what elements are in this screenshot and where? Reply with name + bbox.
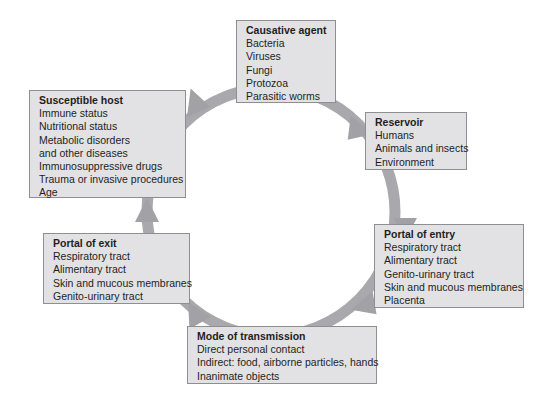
node-title: Reservoir (375, 116, 466, 129)
node-item: Indirect: food, airborne particles, hand… (197, 356, 376, 369)
node-item: Direct personal contact (197, 343, 376, 356)
node-title: Susceptible host (39, 94, 185, 107)
node-item: Fungi (246, 64, 335, 77)
node-item: Genito-urinary tract (53, 290, 189, 303)
node-item: Humans (375, 129, 466, 142)
node-item: Parasitic worms (246, 90, 335, 103)
node-reservoir: Reservoir Humans Animals and insects Env… (365, 112, 467, 170)
node-item: Animals and insects (375, 142, 466, 155)
node-item: Trauma or invasive procedures (39, 173, 185, 186)
node-item: Age (39, 186, 185, 199)
node-item: Immune status (39, 107, 185, 120)
node-item: Genito-urinary tract (384, 268, 523, 281)
node-portal-of-exit: Portal of exit Respiratory tract Aliment… (43, 233, 190, 304)
node-item: Placenta (384, 294, 523, 307)
node-item: Nutritional status (39, 120, 185, 133)
node-susceptible-host: Susceptible host Immune status Nutrition… (29, 90, 186, 198)
node-causative-agent: Causative agent Bacteria Viruses Fungi P… (236, 20, 336, 103)
node-item: and other diseases (39, 147, 185, 160)
node-title: Mode of transmission (197, 330, 376, 343)
node-title: Portal of exit (53, 237, 189, 250)
node-item: Alimentary tract (53, 263, 189, 276)
node-item: Metabolic disorders (39, 134, 185, 147)
node-item: Skin and mucous membranes (384, 281, 523, 294)
node-item: Respiratory tract (53, 250, 189, 263)
node-title: Causative agent (246, 24, 335, 37)
arrow-to-host (135, 198, 159, 222)
node-item: Environment (375, 156, 466, 169)
node-portal-of-entry: Portal of entry Respiratory tract Alimen… (374, 224, 524, 308)
node-item: Viruses (246, 50, 335, 63)
node-item: Immunosuppressive drugs (39, 160, 185, 173)
node-item: Protozoa (246, 77, 335, 90)
node-item: Respiratory tract (384, 241, 523, 254)
node-mode-of-transmission: Mode of transmission Direct personal con… (187, 326, 377, 384)
node-item: Inanimate objects (197, 370, 376, 383)
node-item: Bacteria (246, 37, 335, 50)
node-title: Portal of entry (384, 228, 523, 241)
node-item: Skin and mucous membranes (53, 277, 189, 290)
node-item: Alimentary tract (384, 254, 523, 267)
